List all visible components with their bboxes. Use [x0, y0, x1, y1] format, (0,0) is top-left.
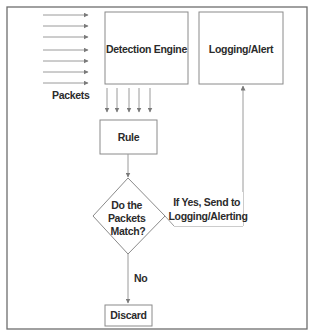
no-branch-label: No [134, 272, 147, 284]
logging-alert-label: Logging/Alert [209, 43, 274, 55]
decision-label: Do the Packets Match? [108, 199, 148, 237]
packets-label: Packets [52, 89, 90, 101]
detection-engine-label: Detection Engine [106, 43, 187, 55]
discard-node: Discard [105, 305, 152, 326]
detection-engine-node: Detection Engine [105, 12, 188, 84]
logging-alert-node: Logging/Alert [199, 12, 283, 84]
discard-label: Discard [110, 309, 146, 321]
rule-label: Rule [118, 131, 140, 143]
flow-diagram: Packets Detection Engine Logging/Alert R… [0, 0, 313, 334]
rule-node: Rule [100, 120, 157, 154]
